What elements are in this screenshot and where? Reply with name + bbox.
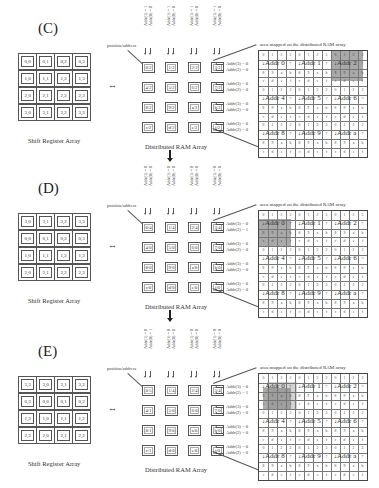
row-address-label: Addr(3) = 0 <box>226 404 248 409</box>
grid-cell-value: b <box>322 266 331 271</box>
row-address-label: Addr(3) = 0 <box>226 81 248 86</box>
grid-cell-value: 9 <box>268 231 277 236</box>
grid-cell-value: d <box>304 239 313 244</box>
grid-cell-value: 3 <box>358 283 367 288</box>
grid-cell-value: c <box>259 402 268 407</box>
grid-cell-value: c <box>331 239 340 244</box>
grid-cell-value: b <box>286 141 295 146</box>
grid-cell-value: c <box>295 150 304 155</box>
panel-label: (D) <box>38 180 59 197</box>
shift-register-cell: 1,1 <box>39 73 52 84</box>
row-address-label: Addr(3) = 0 <box>226 121 248 126</box>
shift-register-caption: Shift Register Array <box>28 297 80 304</box>
grid-cell-value: 3 <box>286 283 295 288</box>
column-address-label: Addr(0) = 0 <box>194 166 199 186</box>
grid-cell-value: f <box>286 275 295 280</box>
grid-cell-value: 3 <box>322 88 331 93</box>
grid-cell-value: b <box>322 394 331 399</box>
down-arrow-icon <box>168 48 169 54</box>
grid-cell-value: 0 <box>331 123 340 128</box>
grid-cell-value: d <box>304 79 313 84</box>
grid-cell-value: 7 <box>286 292 295 297</box>
grid-cell-value: 3 <box>358 411 367 416</box>
grid-cell-value: 1 <box>304 283 313 288</box>
panel-label: (E) <box>38 343 57 360</box>
grid-cell-value: c <box>331 310 340 315</box>
grid-cell-value: 0 <box>259 446 268 451</box>
grid-cell-value: d <box>268 79 277 84</box>
grid-cell-value: 9 <box>268 266 277 271</box>
grid-cell-value: f <box>322 239 331 244</box>
grid-cell-value: a <box>349 429 358 434</box>
grid-cell-value: e <box>349 115 358 120</box>
grid-cell-value: 3 <box>286 248 295 253</box>
grid-cell-value: d <box>340 275 349 280</box>
grid-cell-value: b <box>286 301 295 306</box>
grid-cell-value: d <box>304 275 313 280</box>
grid-cell-value: 9 <box>304 106 313 111</box>
grid-cell-value: 2 <box>349 123 358 128</box>
grid-cell-value: 0 <box>259 213 268 218</box>
grid-cell-value: 8 <box>259 394 268 399</box>
shift-register-cell: 0,0 <box>21 233 34 244</box>
grid-cell-value: 3 <box>286 411 295 416</box>
grid-cell-value: 3 <box>358 248 367 253</box>
left-arrow-icon <box>216 270 224 271</box>
grid-cell-value: a <box>349 464 358 469</box>
address-block-label: Addr a <box>337 129 356 137</box>
grid-cell-value: 2 <box>313 53 322 58</box>
grid-cell-value: 0 <box>295 213 304 218</box>
grid-cell-value: 1 <box>268 53 277 58</box>
row-address-label: Addr(3) = 0 <box>226 221 248 226</box>
grid-line <box>259 121 367 122</box>
grid-cell-value: e <box>277 239 286 244</box>
shift-register-cell: 0,1 <box>57 396 70 407</box>
address-block-label: Addr 1 <box>301 219 321 227</box>
left-arrow-icon <box>216 224 224 225</box>
address-block-label: Addr 6 <box>337 94 357 102</box>
grid-cell-value: 2 <box>277 446 286 451</box>
grid-cell-value: 9 <box>268 141 277 146</box>
grid-cell-value: b <box>286 266 295 271</box>
grid-cell-value: b <box>322 141 331 146</box>
grid-cell-value: 1 <box>304 376 313 381</box>
ram-cell: 6/2 <box>188 82 201 93</box>
ram-cell: 4/0 <box>142 242 155 253</box>
grid-cell-value: 9 <box>340 71 349 76</box>
shift-register-cell: 1,0 <box>21 73 34 84</box>
grid-cell-value: 0 <box>295 411 304 416</box>
column-address-label: Addr(0) = 0 <box>171 6 176 26</box>
address-block-label: Addr 4 <box>265 417 285 425</box>
ram-cell: c/1 <box>142 445 155 456</box>
left-arrow-icon <box>216 84 224 85</box>
grid-cell-value: 8 <box>295 106 304 111</box>
grid-cell-value: f <box>358 473 367 478</box>
grid-line <box>259 427 367 428</box>
shift-register-cell: 1,0 <box>39 413 52 424</box>
grid-cell-value: 3 <box>322 248 331 253</box>
grid-cell-value: 7 <box>286 420 295 425</box>
address-block-label: Addr 2 <box>337 219 357 227</box>
grid-cell-value: 1 <box>340 123 349 128</box>
grid-cell-value: 1 <box>340 248 349 253</box>
left-arrow-icon <box>216 284 224 285</box>
grid-cell-value: 9 <box>340 429 349 434</box>
grid-line <box>259 104 367 105</box>
shift-register-cell: 0,1 <box>39 56 52 67</box>
left-arrow-icon <box>216 230 224 231</box>
grid-cell-value: d <box>340 150 349 155</box>
left-arrow-icon <box>216 433 224 434</box>
grid-cell-value: 3 <box>358 446 367 451</box>
address-block-label: Addr 6 <box>337 254 357 262</box>
panel-d: (D)3,03,13,23,30,00,10,20,31,01,11,21,32… <box>0 160 379 320</box>
grid-cell-value: b <box>358 106 367 111</box>
grid-cell-value: d <box>340 310 349 315</box>
left-arrow-icon <box>216 90 224 91</box>
grid-line <box>259 273 367 274</box>
column-address-label: Addr(0) = 0 <box>171 329 176 349</box>
grid-cell-value: 7 <box>322 292 331 297</box>
ram-cell: 4/1 <box>142 405 155 416</box>
ram-array-caption: Distributed RAM Array <box>145 466 207 473</box>
grid-cell-value: e <box>349 402 358 407</box>
down-arrow-icon <box>169 310 171 318</box>
